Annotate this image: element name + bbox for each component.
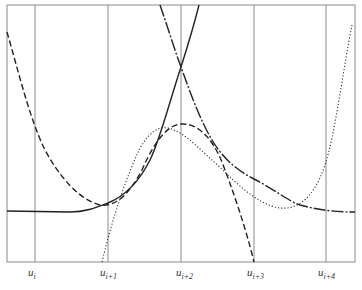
knot-subscript: i+4 xyxy=(324,272,336,281)
knot-label-ui4: ui+4 xyxy=(318,266,335,281)
knot-subscript: i+1 xyxy=(106,272,118,281)
knot-label-ui2: ui+2 xyxy=(176,266,193,281)
knot-subscript: i xyxy=(34,272,36,281)
knot-label-ui1: ui+1 xyxy=(100,266,117,281)
knot-subscript: i+2 xyxy=(182,272,194,281)
knot-label-ui3: ui+3 xyxy=(247,266,264,281)
knot-subscript: i+3 xyxy=(253,272,265,281)
knot-label-ui: ui xyxy=(28,266,36,281)
spline-diagram xyxy=(0,0,362,290)
dotted-curve xyxy=(102,25,352,262)
